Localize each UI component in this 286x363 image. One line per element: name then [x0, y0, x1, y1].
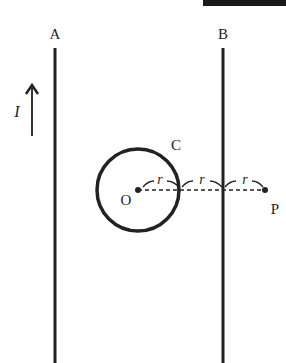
spacing-label-1: r [157, 172, 163, 187]
spacing-label-3: r [242, 172, 248, 187]
wire-a-label: A [50, 26, 61, 42]
point-label: P [271, 201, 279, 217]
loop-label: C [171, 137, 181, 153]
current-label: I [13, 103, 20, 120]
current-arrow-icon [26, 85, 38, 136]
point-p [262, 187, 268, 193]
physics-diagram: A B I C O P r r r [0, 0, 286, 363]
wire-b-label: B [218, 26, 228, 42]
center-point [135, 187, 141, 193]
center-label: O [121, 192, 132, 208]
cropped-header-text [203, 0, 286, 6]
spacing-label-2: r [199, 172, 205, 187]
